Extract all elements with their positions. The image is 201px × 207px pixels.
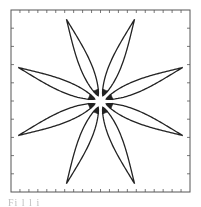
petal-7 xyxy=(103,107,135,183)
petals xyxy=(18,19,182,183)
petal-4 xyxy=(18,67,94,99)
petal-2 xyxy=(103,19,135,95)
petal-3 xyxy=(66,19,98,95)
rosette-figure xyxy=(0,0,201,207)
petal-8 xyxy=(106,104,182,136)
petal-5 xyxy=(18,104,94,136)
axis-ticks xyxy=(11,10,190,192)
figure-caption: Fi l l i xyxy=(8,197,198,207)
petal-1 xyxy=(106,67,182,99)
petal-6 xyxy=(66,107,98,183)
plot-frame xyxy=(11,10,190,192)
